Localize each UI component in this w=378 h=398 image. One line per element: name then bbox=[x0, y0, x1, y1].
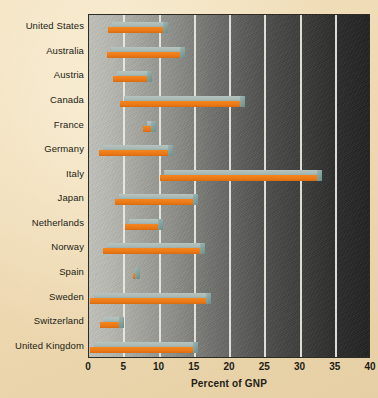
bar-end-cap bbox=[180, 47, 185, 58]
category-label-spain: Spain bbox=[0, 266, 84, 277]
category-label-germany: Germany bbox=[0, 143, 84, 154]
x-axis-title: Percent of GNP bbox=[88, 378, 370, 389]
bar-front-face bbox=[99, 150, 170, 156]
x-tick-15: 15 bbox=[188, 361, 199, 372]
category-label-france: France bbox=[0, 119, 84, 130]
category-label-canada: Canada bbox=[0, 94, 84, 105]
gridline-20 bbox=[229, 15, 231, 357]
category-label-australia: Australia bbox=[0, 45, 84, 56]
category-label-united-states: United States bbox=[0, 20, 84, 31]
category-axis-labels: United StatesAustraliaAustriaCanadaFranc… bbox=[0, 14, 84, 358]
bar-end-cap bbox=[317, 170, 322, 181]
gridline-10 bbox=[159, 15, 161, 357]
x-tick-20: 20 bbox=[223, 361, 234, 372]
bar-end-cap bbox=[168, 145, 173, 156]
bar bbox=[125, 219, 163, 230]
bar bbox=[113, 71, 152, 82]
bar-end-cap bbox=[193, 194, 198, 205]
category-label-united-kingdom: United Kingdom bbox=[0, 340, 84, 351]
gridline-30 bbox=[300, 15, 302, 357]
category-label-norway: Norway bbox=[0, 241, 84, 252]
bar bbox=[99, 145, 174, 156]
bar-front-face bbox=[160, 175, 319, 181]
bar-end-cap bbox=[119, 317, 124, 328]
category-label-switzerland: Switzerland bbox=[0, 315, 84, 326]
x-tick-30: 30 bbox=[294, 361, 305, 372]
bar bbox=[120, 96, 245, 107]
bar bbox=[100, 317, 124, 328]
bar-front-face bbox=[103, 248, 201, 254]
bar-end-cap bbox=[206, 293, 211, 304]
category-label-japan: Japan bbox=[0, 192, 84, 203]
gridline-35 bbox=[335, 15, 337, 357]
bar bbox=[90, 293, 210, 304]
bar-front-face bbox=[90, 347, 194, 353]
bar-front-face bbox=[90, 298, 206, 304]
x-axis-tick-labels: 0510152025303540 bbox=[88, 361, 370, 375]
category-label-austria: Austria bbox=[0, 69, 84, 80]
bar-front-face bbox=[125, 224, 159, 230]
bar bbox=[90, 342, 198, 353]
x-tick-25: 25 bbox=[259, 361, 270, 372]
bar bbox=[133, 268, 140, 279]
bar-end-cap bbox=[135, 268, 140, 279]
x-tick-40: 40 bbox=[364, 361, 375, 372]
bar bbox=[108, 22, 168, 33]
bar-end-cap bbox=[193, 342, 198, 353]
bar-front-face bbox=[120, 101, 241, 107]
bar-end-cap bbox=[200, 243, 205, 254]
x-tick-10: 10 bbox=[153, 361, 164, 372]
bar bbox=[115, 194, 198, 205]
bar-front-face bbox=[108, 27, 164, 33]
chart-figure: United StatesAustraliaAustriaCanadaFranc… bbox=[0, 0, 378, 398]
bar-end-cap bbox=[147, 71, 152, 82]
gridline-15 bbox=[194, 15, 196, 357]
bar-end-cap bbox=[163, 22, 168, 33]
bar-end-cap bbox=[240, 96, 245, 107]
gridline-25 bbox=[264, 15, 266, 357]
bar-front-face bbox=[107, 52, 180, 58]
bar bbox=[160, 170, 323, 181]
bar-front-face bbox=[100, 322, 120, 328]
bar-front-face bbox=[115, 199, 194, 205]
x-tick-0: 0 bbox=[85, 361, 91, 372]
category-label-netherlands: Netherlands bbox=[0, 217, 84, 228]
bar-end-cap bbox=[158, 219, 163, 230]
bar-end-cap bbox=[151, 121, 156, 132]
bar bbox=[103, 243, 205, 254]
x-tick-35: 35 bbox=[329, 361, 340, 372]
bar bbox=[143, 121, 156, 132]
category-label-italy: Italy bbox=[0, 168, 84, 179]
x-tick-5: 5 bbox=[120, 361, 126, 372]
bar-front-face bbox=[113, 76, 148, 82]
category-label-sweden: Sweden bbox=[0, 291, 84, 302]
gridline-5 bbox=[123, 15, 125, 357]
plot-area bbox=[88, 14, 370, 358]
bar bbox=[107, 47, 184, 58]
